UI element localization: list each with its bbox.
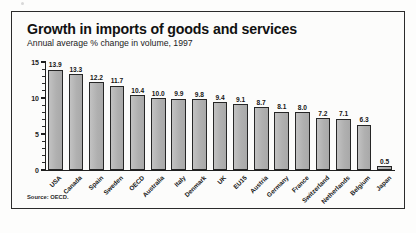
chart-figure: Growth in imports of goods and services … bbox=[0, 0, 416, 233]
bar-slot: 8.1 bbox=[274, 62, 289, 170]
bar-value-label: 10.0 bbox=[152, 90, 165, 97]
bar-slot: 7.2 bbox=[316, 62, 331, 170]
bar-value-label: 9.9 bbox=[174, 90, 183, 97]
bar[interactable] bbox=[233, 104, 248, 170]
bar-value-label: 8.1 bbox=[277, 103, 286, 110]
bar-slot: 12.2 bbox=[89, 62, 104, 170]
x-tick-anchor: Sweden bbox=[119, 62, 120, 63]
scan-artifact-speck bbox=[21, 2, 24, 5]
bar-value-label: 7.1 bbox=[339, 110, 348, 117]
bar[interactable] bbox=[377, 166, 392, 170]
x-tick-anchor: Switzerland bbox=[324, 62, 325, 63]
bar[interactable] bbox=[130, 95, 145, 170]
bar-value-label: 7.2 bbox=[318, 110, 327, 117]
x-tick-anchor: Canada bbox=[77, 62, 78, 63]
bar-slot: 7.1 bbox=[336, 62, 351, 170]
x-tick-label: Spain bbox=[87, 174, 104, 191]
bar[interactable] bbox=[357, 125, 372, 170]
x-tick-anchor: OECD bbox=[139, 62, 140, 63]
x-tick-label: UK bbox=[216, 174, 227, 185]
bar-series: 13.9USA13.3Canada12.2Spain11.7Sweden10.4… bbox=[45, 62, 395, 170]
y-tick-label: 5 bbox=[35, 131, 39, 138]
bar-value-label: 9.8 bbox=[195, 91, 204, 98]
x-tick-anchor: USA bbox=[57, 62, 58, 63]
bar-value-label: 12.2 bbox=[90, 74, 103, 81]
chart-frame: Growth in imports of goods and services … bbox=[11, 11, 405, 209]
bar[interactable] bbox=[274, 112, 289, 170]
x-axis-line bbox=[45, 170, 395, 171]
source-note: Source: OECD. bbox=[27, 194, 69, 200]
x-tick-anchor: Japan bbox=[386, 62, 387, 63]
bar-value-label: 9.4 bbox=[215, 94, 224, 101]
x-tick-label: USA bbox=[48, 174, 62, 188]
x-tick-anchor: Belgium bbox=[366, 62, 367, 63]
bar-slot: 6.3 bbox=[357, 62, 372, 170]
bar-value-label: 13.9 bbox=[49, 61, 62, 68]
bar[interactable] bbox=[48, 70, 63, 170]
x-tick-label: Belgium bbox=[349, 174, 372, 197]
y-tick-label: 10 bbox=[31, 95, 39, 102]
bar-slot: 9.8 bbox=[192, 62, 207, 170]
x-tick-label: Japan bbox=[374, 174, 392, 192]
x-tick-label: Canada bbox=[62, 174, 83, 195]
bar-slot: 9.1 bbox=[233, 62, 248, 170]
bar[interactable] bbox=[213, 102, 228, 170]
bar[interactable] bbox=[295, 112, 310, 170]
bar-slot: 10.4 bbox=[130, 62, 145, 170]
bar[interactable] bbox=[316, 118, 331, 170]
x-tick-label: Italy bbox=[172, 174, 186, 188]
chart-title: Growth in imports of goods and services bbox=[27, 21, 297, 37]
x-tick-anchor: Denmark bbox=[201, 62, 202, 63]
x-tick-anchor: UK bbox=[222, 62, 223, 63]
x-tick-anchor: EU15 bbox=[242, 62, 243, 63]
y-tick-label: 0 bbox=[35, 167, 39, 174]
x-tick-anchor: Germany bbox=[283, 62, 284, 63]
bar[interactable] bbox=[151, 98, 166, 170]
bar-value-label: 11.7 bbox=[111, 77, 123, 84]
x-tick-label: OECD bbox=[127, 174, 145, 192]
bar-slot: 13.3 bbox=[69, 62, 84, 170]
bar-slot: 8.0 bbox=[295, 62, 310, 170]
bar-slot: 8.7 bbox=[254, 62, 269, 170]
bar-slot: 0.5 bbox=[377, 62, 392, 170]
bar-value-label: 6.3 bbox=[360, 116, 369, 123]
bar-slot: 9.9 bbox=[171, 62, 186, 170]
bar[interactable] bbox=[254, 107, 269, 170]
x-tick-anchor: Austria bbox=[263, 62, 264, 63]
x-tick-label: EU15 bbox=[232, 174, 248, 190]
bar-value-label: 0.5 bbox=[380, 158, 389, 165]
bar[interactable] bbox=[110, 86, 125, 170]
bar-slot: 13.9 bbox=[48, 62, 63, 170]
x-tick-anchor: France bbox=[304, 62, 305, 63]
y-tick-label: 15 bbox=[31, 59, 39, 66]
chart-subtitle: Annual average % change in volume, 1997 bbox=[27, 38, 193, 48]
bar-slot: 11.7 bbox=[110, 62, 125, 170]
bar-value-label: 13.3 bbox=[69, 66, 82, 73]
bar-value-label: 8.7 bbox=[257, 99, 266, 106]
bar-value-label: 8.0 bbox=[298, 104, 307, 111]
x-tick-anchor: Italy bbox=[180, 62, 181, 63]
bar[interactable] bbox=[171, 99, 186, 170]
bar-value-label: 9.1 bbox=[236, 96, 245, 103]
bar[interactable] bbox=[89, 82, 104, 170]
plot-area: 051015 13.9USA13.3Canada12.2Spain11.7Swe… bbox=[45, 62, 395, 170]
bar-slot: 10.0 bbox=[151, 62, 166, 170]
bar[interactable] bbox=[192, 99, 207, 170]
bar-value-label: 10.4 bbox=[131, 87, 144, 94]
bar[interactable] bbox=[336, 119, 351, 170]
x-tick-anchor: Netherlands bbox=[345, 62, 346, 63]
bar-slot: 9.4 bbox=[213, 62, 228, 170]
x-tick-anchor: Australia bbox=[160, 62, 161, 63]
x-tick-anchor: Spain bbox=[98, 62, 99, 63]
x-tick-label: Sweden bbox=[102, 174, 124, 196]
bar[interactable] bbox=[69, 74, 84, 170]
